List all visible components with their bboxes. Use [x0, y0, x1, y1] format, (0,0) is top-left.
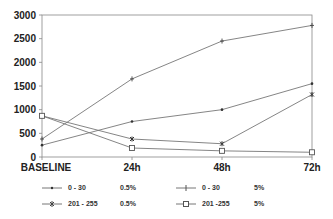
legend-range: 0 - 30 [202, 184, 254, 191]
legend-conc: 5% [254, 184, 264, 191]
legend-conc: 0.5% [120, 200, 136, 207]
data-series [40, 23, 315, 155]
legend-item-201-255-5: 201 -255 5% [176, 200, 264, 207]
legend-item-0-30-5: 0 - 30 5% [176, 184, 264, 191]
line-chart: 050010001500200025003000 BASELINE24h48h7… [0, 0, 333, 175]
svg-text:0: 0 [30, 152, 36, 163]
legend-item-0-30-0.5: 0 - 30 0.5% [42, 184, 136, 191]
svg-text:24h: 24h [123, 162, 140, 173]
x-axis-ticks: BASELINE24h48h72h [21, 157, 321, 173]
svg-text:1500: 1500 [14, 81, 37, 92]
legend-range: 201 - 255 [68, 200, 120, 207]
star-marker-icon [42, 201, 62, 207]
plot-frame [42, 15, 312, 157]
y-axis-ticks: 050010001500200025003000 [14, 10, 42, 163]
square-marker-icon [176, 201, 196, 207]
dot-marker-icon [42, 185, 62, 191]
svg-text:1000: 1000 [14, 104, 37, 115]
svg-text:2500: 2500 [14, 33, 37, 44]
svg-text:72h: 72h [303, 162, 320, 173]
svg-text:48h: 48h [213, 162, 230, 173]
svg-text:BASELINE: BASELINE [21, 162, 72, 173]
svg-text:500: 500 [19, 128, 36, 139]
svg-text:3000: 3000 [14, 10, 37, 21]
legend-conc: 5% [254, 200, 264, 207]
legend-item-201-255-0.5: 201 - 255 0.5% [42, 200, 136, 207]
legend-conc: 0.5% [120, 184, 136, 191]
svg-text:2000: 2000 [14, 57, 37, 68]
legend-range: 201 -255 [202, 200, 254, 207]
plus-marker-icon [176, 185, 196, 191]
legend-range: 0 - 30 [68, 184, 120, 191]
